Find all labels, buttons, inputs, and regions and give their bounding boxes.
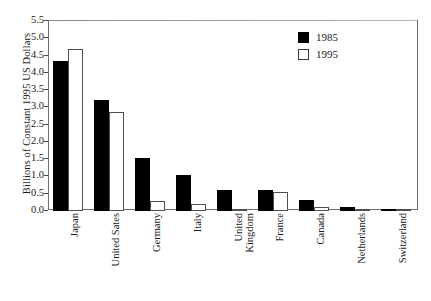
bar-1985 [94,100,109,211]
x-axis-label: UnitedKingdom [233,213,255,253]
y-tick-label: 1.0 [18,170,44,180]
y-tick-label: 5.0 [18,32,44,42]
legend-label-1995: 1995 [316,49,338,60]
bar-group [378,21,419,211]
legend-swatch-1995 [298,49,309,60]
chart-legend: 1985 1995 [298,30,384,64]
x-axis-label-slot: Netherlands [336,213,377,301]
x-axis-label: Switzerland [397,213,408,263]
x-axis-label-line: Switzerland [397,213,408,263]
bar-group [172,21,213,211]
x-axis-label-slot: France [254,213,295,301]
y-tick-label: 3.0 [18,101,44,111]
y-tick-label: 0.5 [18,188,44,198]
bar-1985 [135,158,150,211]
x-axis-label: United Sates [110,213,121,266]
x-axis-label: Italy [192,213,203,232]
x-axis-label: Japan [69,213,80,237]
y-tick-label: 0.0 [18,205,44,215]
x-axis-label-line: Germany [151,213,162,252]
bar-1995 [191,204,206,211]
x-axis-label-line: United [233,213,244,242]
legend-item-1995: 1995 [298,47,384,62]
x-axis-label-line: Italy [192,213,203,232]
bar-1995 [396,209,411,211]
y-tick-label: 4.5 [18,50,44,60]
x-axis-label-slot: Italy [171,213,212,301]
x-axis-label-line: France [274,213,285,242]
bar-1985 [176,175,191,211]
bar-group [213,21,254,211]
bar-1985 [340,207,355,211]
x-axis-label-line: United Sates [110,213,121,266]
x-axis-label: Netherlands [356,213,367,264]
x-axis-label-slot: Germany [130,213,171,301]
x-axis-label-slot: Switzerland [377,213,418,301]
bar-1995 [150,201,165,211]
bar-1995 [273,192,288,211]
bar-1995 [109,112,124,211]
y-tick-label: 2.5 [18,119,44,129]
y-tick-label: 2.0 [18,136,44,146]
bar-chart-figure: Billions of Constant 1995 US Dollars 5.5… [0,0,431,301]
x-axis-category-labels: JapanUnited SatesGermanyItalyUnitedKingd… [48,213,418,301]
legend-swatch-1985 [298,32,309,43]
bar-group [49,21,90,211]
bar-1985 [53,61,68,211]
x-axis-label-line: Canada [315,213,326,245]
bar-1985 [299,200,314,211]
bar-1985 [217,190,232,211]
bar-group [255,21,296,211]
y-tick-mark [44,210,48,211]
bar-group [131,21,172,211]
x-axis-label-slot: Japan [48,213,89,301]
x-axis-label-line: Netherlands [356,213,367,264]
y-tick-label: 4.0 [18,67,44,77]
x-axis-label-slot: UnitedKingdom [212,213,253,301]
x-axis-label: Canada [315,213,326,245]
bar-1995 [68,49,83,211]
x-axis-label-slot: United Sates [89,213,130,301]
legend-item-1985: 1985 [298,30,384,45]
x-axis-label-line: Japan [69,213,80,237]
x-axis-label-slot: Canada [295,213,336,301]
x-axis-label: Germany [151,213,162,252]
x-axis-label: France [274,213,285,242]
bar-1995 [232,209,247,211]
y-tick-label: 5.5 [18,15,44,25]
y-tick-label: 3.5 [18,84,44,94]
y-tick-label: 1.5 [18,153,44,163]
bar-1995 [355,209,370,211]
bar-1985 [381,209,396,211]
bar-1985 [258,190,273,211]
bar-group [90,21,131,211]
legend-label-1985: 1985 [316,32,338,43]
y-axis-tick-labels: 5.55.04.54.03.53.02.52.01.51.00.50.0 [18,20,44,210]
bar-1995 [314,207,329,211]
